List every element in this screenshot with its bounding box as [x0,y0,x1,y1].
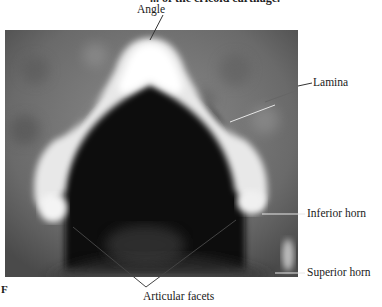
label-articular-facets: Articular facets [143,290,214,302]
leader-lines [0,0,382,307]
panel-letter: F [1,283,8,295]
label-superior-horn: Superior horn [307,266,371,278]
label-inferior-horn: Inferior horn [307,207,366,219]
label-angle: Angle [137,3,165,15]
label-lamina: Lamina [313,76,348,88]
